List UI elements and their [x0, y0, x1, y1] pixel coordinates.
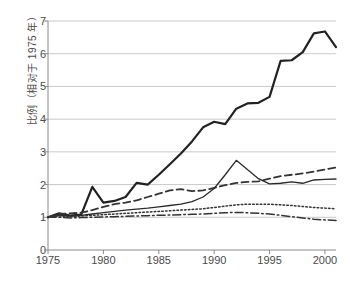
series-line-series-1 — [48, 31, 336, 217]
plot-area — [0, 0, 346, 286]
data-series-layer — [48, 31, 336, 220]
axis-tickmarks — [44, 21, 325, 254]
chart-figure: 比例（相对于 1975 年） 01234567 1975198019851990… — [0, 0, 346, 286]
